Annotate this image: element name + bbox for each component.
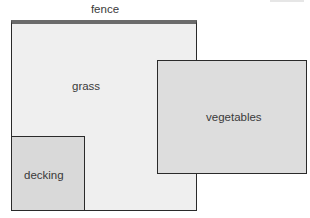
grass-label: grass	[72, 80, 100, 92]
decking-label: decking	[24, 169, 64, 181]
decking-area: decking	[11, 136, 85, 211]
vegetables-label: vegetables	[206, 111, 262, 123]
fence-label: fence	[0, 3, 210, 15]
vegetables-area: vegetables	[157, 60, 307, 174]
decorative-mark	[270, 0, 304, 2]
